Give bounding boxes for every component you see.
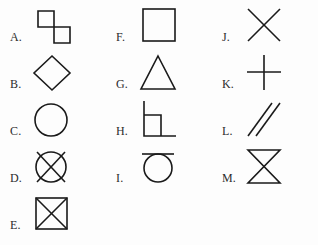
s-tetromino-offset-squares-icon <box>30 5 74 47</box>
symbol-item-e: E. <box>0 190 106 237</box>
symbol-chart: A. B. C. D. <box>0 0 318 245</box>
symbol-label-f: F. <box>116 31 125 43</box>
square-with-x-icon <box>30 193 74 235</box>
symbol-column-1: A. B. C. D. <box>0 0 106 245</box>
bowtie-hourglass-icon <box>242 146 286 188</box>
symbol-label-h: H. <box>116 125 128 137</box>
symbol-item-a: A. <box>0 2 106 49</box>
symbol-label-l: L. <box>222 125 233 137</box>
symbol-item-l: L. <box>212 96 318 143</box>
symbol-item-i: I. <box>106 143 212 190</box>
circle-icon <box>30 99 74 141</box>
symbol-item-f: F. <box>106 2 212 49</box>
plus-icon <box>242 52 286 94</box>
symbol-column-2: F. G. H. <box>106 0 212 245</box>
x-cross-icon <box>242 5 286 47</box>
symbol-label-k: K. <box>222 78 234 90</box>
circle-with-top-bar-icon <box>136 146 180 188</box>
symbol-label-j: J. <box>222 31 230 43</box>
symbol-column-3: J. K. L. <box>212 0 318 245</box>
symbol-item-g: G. <box>106 49 212 96</box>
symbol-item-c: C. <box>0 96 106 143</box>
symbol-item-m: M. <box>212 143 318 190</box>
square-with-extended-corners-icon <box>136 99 180 141</box>
symbol-item-b: B. <box>0 49 106 96</box>
diamond-icon <box>30 52 74 94</box>
symbol-item-d: D. <box>0 143 106 190</box>
symbol-label-g: G. <box>116 78 128 90</box>
symbol-label-b: B. <box>10 78 21 90</box>
symbol-item-k: K. <box>212 49 318 96</box>
symbol-label-e: E. <box>10 219 21 231</box>
double-diagonal-lines-icon <box>242 99 286 141</box>
symbol-label-a: A. <box>10 31 22 43</box>
triangle-icon <box>136 52 180 94</box>
symbol-label-m: M. <box>222 172 236 184</box>
square-icon <box>136 5 180 47</box>
symbol-item-h: H. <box>106 96 212 143</box>
symbol-label-d: D. <box>10 172 22 184</box>
circle-with-x-icon <box>30 146 74 188</box>
symbol-item-j: J. <box>212 2 318 49</box>
symbol-label-i: I. <box>116 172 123 184</box>
symbol-label-c: C. <box>10 125 21 137</box>
